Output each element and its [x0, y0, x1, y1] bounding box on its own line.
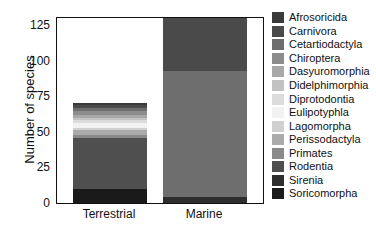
- legend-label: Diprotodontia: [289, 94, 354, 105]
- legend-label: Didelphimorphia: [289, 80, 369, 91]
- legend-label: Dasyuromorphia: [289, 66, 370, 77]
- bar-segment: [73, 105, 147, 108]
- y-tick-label: 25: [16, 162, 50, 172]
- legend-item[interactable]: Lagomorpha: [272, 119, 376, 133]
- legend-swatch-icon: [272, 161, 284, 172]
- bar-segment: [73, 123, 147, 127]
- legend-item[interactable]: Afrosoricida: [272, 11, 376, 25]
- legend-swatch-icon: [272, 80, 284, 91]
- bar-segment: [73, 135, 147, 138]
- legend-item[interactable]: Didelphimorphia: [272, 79, 376, 93]
- legend-item[interactable]: Cetartiodactyla: [272, 38, 376, 52]
- legend-label: Lagomorpha: [289, 121, 351, 132]
- bar-segment: [73, 115, 147, 118]
- bar-segment: [73, 138, 147, 189]
- legend-item[interactable]: Sirenia: [272, 174, 376, 188]
- y-tick-label: 50: [16, 127, 50, 137]
- legend-label: Afrosoricida: [289, 12, 347, 23]
- y-tick-label: 0: [16, 198, 50, 208]
- chart-figure: Number of species 0255075100125 Terrestr…: [0, 0, 376, 245]
- legend-label: Sirenia: [289, 175, 323, 186]
- bar-segment: [73, 118, 147, 121]
- legend-label: Cetartiodactyla: [289, 39, 362, 50]
- bar-segment: [73, 130, 147, 134]
- legend-swatch-icon: [272, 66, 284, 77]
- legend-swatch-icon: [272, 175, 284, 186]
- legend-label: Carnivora: [289, 26, 337, 37]
- plot-inner: [57, 18, 263, 203]
- legend-label: Chiroptera: [289, 53, 340, 64]
- legend-label: Soricomorpha: [289, 188, 357, 199]
- legend-swatch-icon: [272, 148, 284, 159]
- bar-segment: [73, 128, 147, 131]
- legend-label: Perissodactyla: [289, 134, 361, 145]
- legend-item[interactable]: Eulipotyphla: [272, 106, 376, 120]
- bar-segment: [163, 197, 247, 203]
- legend-item[interactable]: Primates: [272, 146, 376, 160]
- legend-item[interactable]: Perissodactyla: [272, 133, 376, 147]
- y-tick-label: 125: [16, 20, 50, 30]
- legend-swatch-icon: [272, 94, 284, 105]
- y-axis-tick-labels: 0255075100125: [12, 0, 50, 245]
- bar-marine: [163, 18, 247, 203]
- plot-area: [56, 17, 264, 204]
- legend-item[interactable]: Rodentia: [272, 160, 376, 174]
- bar-segment: [163, 18, 247, 71]
- bar-segment: [73, 108, 147, 111]
- legend-swatch-icon: [272, 26, 284, 37]
- bar-segment: [163, 71, 247, 198]
- x-tick-label-marine: Marine: [154, 207, 254, 221]
- y-tick-label: 100: [16, 56, 50, 66]
- bar-segment: [73, 111, 147, 115]
- legend-item[interactable]: Soricomorpha: [272, 187, 376, 201]
- legend-item[interactable]: Dasyuromorphia: [272, 65, 376, 79]
- legend-swatch-icon: [272, 121, 284, 132]
- legend-swatch-icon: [272, 12, 284, 23]
- legend: AfrosoricidaCarnivoraCetartiodactylaChir…: [272, 11, 376, 201]
- bar-segment: [73, 189, 147, 203]
- legend-swatch-icon: [272, 134, 284, 145]
- y-tick-label: 75: [16, 91, 50, 101]
- legend-label: Eulipotyphla: [289, 107, 349, 118]
- legend-item[interactable]: Diprotodontia: [272, 92, 376, 106]
- legend-swatch-icon: [272, 107, 284, 118]
- legend-label: Primates: [289, 148, 332, 159]
- legend-label: Rodentia: [289, 161, 333, 172]
- x-tick-label-terrestrial: Terrestrial: [59, 207, 159, 221]
- legend-swatch-icon: [272, 53, 284, 64]
- legend-swatch-icon: [272, 39, 284, 50]
- bar-terrestrial: [73, 103, 147, 203]
- legend-item[interactable]: Carnivora: [272, 25, 376, 39]
- bar-segment: [73, 120, 147, 123]
- legend-item[interactable]: Chiroptera: [272, 52, 376, 66]
- legend-swatch-icon: [272, 188, 284, 199]
- bar-segment: [73, 103, 147, 104]
